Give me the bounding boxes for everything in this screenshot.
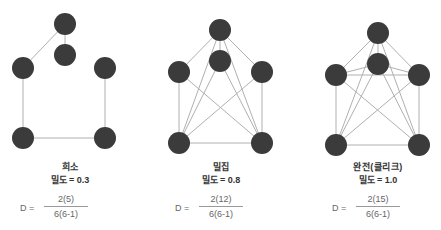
complete-graph-title: 완전(클리크) xyxy=(308,160,441,173)
sparse-graph-node xyxy=(94,57,116,79)
dense-graph-node xyxy=(251,132,273,154)
formula-lhs: D = xyxy=(175,203,189,213)
formula-numerator: 2(15) xyxy=(356,193,400,205)
formula-fraction: 2(12) 6(6-1) xyxy=(199,193,243,220)
complete-graph-node xyxy=(408,134,430,156)
complete-graph-node xyxy=(367,53,389,75)
dense-graph-node xyxy=(209,19,231,41)
sparse-graph-formula: D = 2(5) 6(6-1) xyxy=(20,193,130,223)
dense-graph-node xyxy=(168,132,190,154)
sparse-graph-node xyxy=(54,44,76,66)
formula-denominator: 6(6-1) xyxy=(44,208,88,220)
sparse-graph-node xyxy=(94,127,116,149)
complete-graph-node xyxy=(325,64,347,86)
dense-graph-title: 밀집 xyxy=(151,160,291,173)
complete-graph-density: 밀도 = 1.0 xyxy=(308,173,441,186)
sparse-graph-title: 희소 xyxy=(0,160,140,173)
dense-graph-node xyxy=(251,61,273,83)
sparse-graph-node xyxy=(54,13,76,35)
dense-graph-edge xyxy=(220,30,262,143)
edges-layer xyxy=(23,24,419,145)
complete-graph-node xyxy=(408,64,430,86)
fraction-bar xyxy=(44,206,88,207)
formula-fraction: 2(5) 6(6-1) xyxy=(44,193,88,220)
dense-graph-formula: D = 2(12) 6(6-1) xyxy=(175,193,285,223)
formula-denominator: 6(6-1) xyxy=(356,208,400,220)
complete-graph-formula: D = 2(15) 6(6-1) xyxy=(332,193,441,223)
dense-graph-density: 밀도 = 0.8 xyxy=(151,173,291,186)
formula-lhs: D = xyxy=(332,203,346,213)
fraction-bar xyxy=(356,206,400,207)
complete-graph-node xyxy=(325,134,347,156)
sparse-graph-node xyxy=(12,127,34,149)
fraction-bar xyxy=(199,206,243,207)
formula-lhs: D = xyxy=(20,203,34,213)
formula-denominator: 6(6-1) xyxy=(199,208,243,220)
complete-graph-node xyxy=(367,22,389,44)
complete-graph-edge xyxy=(336,33,378,145)
dense-graph-node xyxy=(168,61,190,83)
formula-numerator: 2(5) xyxy=(44,193,88,205)
sparse-graph-density: 밀도 = 0.3 xyxy=(0,173,140,186)
dense-graph-node xyxy=(209,50,231,72)
formula-numerator: 2(12) xyxy=(199,193,243,205)
formula-fraction: 2(15) 6(6-1) xyxy=(356,193,400,220)
sparse-graph-node xyxy=(12,57,34,79)
